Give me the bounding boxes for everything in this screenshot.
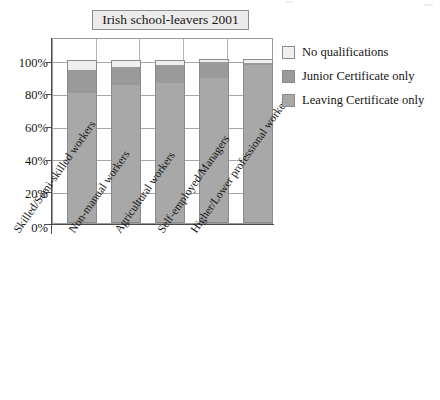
chart-legend: No qualifications Junior Certificate onl… — [282, 40, 438, 112]
y-axis-line — [51, 38, 52, 234]
bar-segment-junior-certificate-only — [67, 70, 97, 93]
bar-segment-junior-certificate-only — [111, 67, 141, 85]
legend-item-no-qualifications[interactable]: No qualifications — [282, 40, 438, 64]
legend-item-leaving-certificate-only[interactable]: Leaving Certificate only — [282, 88, 438, 112]
legend-label: Leaving Certificate only — [302, 93, 424, 107]
bar-segment-no-qualifications — [199, 59, 229, 62]
y-tick-label-100: 100% — [4, 57, 48, 69]
legend-swatch-icon — [282, 46, 295, 59]
legend-swatch-icon — [282, 94, 295, 107]
legend-item-junior-certificate-only[interactable]: Junior Certificate only — [282, 64, 438, 88]
scan-artifact — [286, 1, 293, 3]
chart-title: Irish school-leavers 2001 — [92, 10, 249, 30]
legend-swatch-icon — [282, 70, 295, 83]
scan-artifact — [424, 4, 433, 6]
y-tick-label-40: 40% — [4, 155, 48, 167]
legend-label: Junior Certificate only — [302, 69, 414, 83]
bar-segment-junior-certificate-only — [243, 63, 273, 65]
bar-segment-no-qualifications — [67, 60, 97, 70]
y-tick-label-80: 80% — [4, 89, 48, 101]
chart-figure: Irish school-leavers 2001 100% 80% 60% 4… — [0, 0, 440, 400]
bar-segment-no-qualifications — [243, 59, 273, 63]
y-tick-label-60: 60% — [4, 122, 48, 134]
bar-segment-junior-certificate-only — [155, 65, 185, 83]
legend-label: No qualifications — [302, 45, 388, 59]
bar-segment-no-qualifications — [111, 60, 141, 67]
bar-segment-junior-certificate-only — [199, 62, 229, 78]
bar-segment-no-qualifications — [155, 60, 185, 65]
